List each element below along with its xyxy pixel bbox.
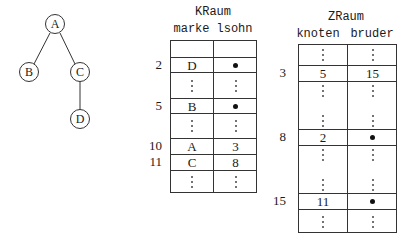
vertical-ellipsis-icon bbox=[299, 146, 347, 193]
vertical-ellipsis-icon bbox=[348, 82, 397, 129]
vertical-ellipsis-icon bbox=[348, 45, 397, 65]
zraum-col-knoten: knoten bbox=[292, 27, 344, 41]
zraum-title: ZRaum bbox=[298, 10, 394, 24]
table-row: C 8 bbox=[171, 154, 256, 170]
zraum-index: 15 bbox=[262, 193, 286, 209]
kraum-table: D B A 3 C 8 bbox=[170, 40, 257, 193]
kraum-marke-cell: A bbox=[171, 139, 213, 154]
node-d-label: D bbox=[76, 112, 85, 126]
vertical-ellipsis-icon bbox=[348, 210, 397, 233]
kraum-marke-cell: C bbox=[171, 155, 213, 170]
table-row: 11 bbox=[299, 193, 396, 209]
table-row: B bbox=[171, 98, 256, 114]
zraum-knoten-cell: 5 bbox=[299, 66, 347, 81]
binary-tree: A B C D bbox=[0, 0, 140, 140]
node-b-label: B bbox=[25, 65, 33, 79]
node-c-label: C bbox=[76, 65, 84, 79]
table-row bbox=[299, 145, 396, 193]
zraum-bruder-cell: 15 bbox=[348, 66, 397, 81]
kraum-lsohn-cell bbox=[214, 99, 257, 114]
zraum-bruder-cell bbox=[348, 194, 397, 209]
kraum-index: 5 bbox=[138, 98, 162, 114]
zraum-table: 5 15 2 11 bbox=[298, 44, 397, 233]
null-pointer-icon bbox=[370, 199, 375, 204]
table-row: 2 bbox=[299, 129, 396, 145]
vertical-ellipsis-icon bbox=[171, 171, 213, 193]
table-row: A 3 bbox=[171, 138, 256, 154]
kraum-index: 2 bbox=[138, 57, 162, 73]
null-pointer-icon bbox=[233, 104, 238, 109]
table-row bbox=[171, 170, 256, 193]
vertical-ellipsis-icon bbox=[214, 73, 257, 98]
kraum-marke-cell: B bbox=[171, 99, 213, 114]
table-row bbox=[299, 45, 396, 65]
edge-a-b bbox=[34, 33, 50, 64]
kraum-col-lsohn: lsohn bbox=[213, 22, 256, 36]
vertical-ellipsis-icon bbox=[299, 45, 347, 65]
null-pointer-icon bbox=[233, 63, 238, 68]
kraum-lsohn-cell bbox=[214, 58, 257, 73]
zraum-bruder-cell bbox=[348, 130, 397, 145]
vertical-ellipsis-icon bbox=[299, 210, 347, 233]
kraum-index: 11 bbox=[138, 154, 162, 170]
zraum-col-bruder: bruder bbox=[344, 27, 400, 41]
table-row: D bbox=[171, 57, 256, 73]
null-pointer-icon bbox=[370, 135, 375, 140]
kraum-col-marke: marke bbox=[170, 22, 213, 36]
kraum-lsohn-cell: 3 bbox=[214, 139, 257, 154]
kraum-title: KRaum bbox=[170, 5, 256, 19]
kraum-index: 10 bbox=[138, 138, 162, 154]
kraum-lsohn-cell: 8 bbox=[214, 155, 257, 170]
table-row bbox=[171, 72, 256, 98]
table-row bbox=[171, 113, 256, 138]
edge-a-c bbox=[60, 33, 75, 64]
table-row bbox=[299, 81, 396, 129]
node-a-label: A bbox=[51, 17, 60, 31]
vertical-ellipsis-icon bbox=[348, 146, 397, 193]
zraum-index: 3 bbox=[262, 65, 286, 81]
vertical-ellipsis-icon bbox=[214, 171, 257, 193]
zraum-index: 8 bbox=[262, 129, 286, 145]
kraum-marke-cell: D bbox=[171, 58, 213, 73]
vertical-ellipsis-icon bbox=[171, 114, 213, 138]
zraum-knoten-cell: 11 bbox=[299, 194, 347, 209]
table-row bbox=[171, 41, 256, 57]
table-row bbox=[299, 209, 396, 233]
vertical-ellipsis-icon bbox=[299, 82, 347, 129]
vertical-ellipsis-icon bbox=[171, 73, 213, 98]
zraum-knoten-cell: 2 bbox=[299, 130, 347, 145]
vertical-ellipsis-icon bbox=[214, 114, 257, 138]
table-row: 5 15 bbox=[299, 65, 396, 81]
